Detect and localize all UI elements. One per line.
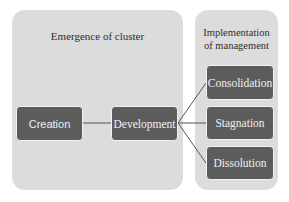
emergence-panel-title: Emergence of cluster bbox=[12, 30, 183, 43]
node-development: Development bbox=[111, 106, 178, 141]
emergence-panel-title-text: Emergence of cluster bbox=[51, 30, 144, 42]
node-stagnation: Stagnation bbox=[206, 106, 274, 140]
node-creation-label: Creation bbox=[29, 118, 71, 130]
node-consolidation: Consolidation bbox=[206, 65, 274, 100]
node-consolidation-label: Consolidation bbox=[208, 77, 273, 89]
node-development-label: Development bbox=[114, 118, 176, 130]
node-stagnation-label: Stagnation bbox=[215, 117, 264, 129]
implementation-panel-title: Implementation of management bbox=[195, 26, 278, 52]
implementation-panel-title-line2: of management bbox=[195, 39, 278, 52]
node-dissolution: Dissolution bbox=[206, 146, 274, 180]
node-creation: Creation bbox=[16, 106, 83, 141]
diagram-canvas: Emergence of cluster Implementation of m… bbox=[0, 0, 289, 202]
node-dissolution-label: Dissolution bbox=[213, 157, 266, 169]
implementation-panel-title-line1: Implementation bbox=[195, 26, 278, 39]
